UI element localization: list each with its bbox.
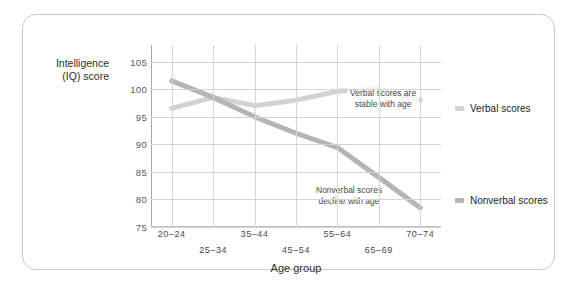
legend-item-verbal: Verbal scores (455, 103, 531, 114)
y-tick-label: 95 (107, 111, 147, 122)
x-axis-title: Age group (151, 262, 441, 274)
legend: Verbal scores Nonverbal scores (455, 15, 565, 271)
gridline-horizontal (151, 227, 441, 228)
legend-swatch-nonverbal-icon (455, 198, 464, 203)
y-tick-label: 90 (107, 139, 147, 150)
annotation-nonverbal-line-1: Nonverbal scores (316, 185, 382, 196)
annotation-nonverbal-line-2: decline with age (316, 196, 382, 207)
annotation-verbal-line-2: stable with age (350, 99, 416, 110)
y-tick-label: 100 (107, 84, 147, 95)
legend-label-nonverbal: Nonverbal scores (470, 195, 548, 206)
gridline-vertical (172, 45, 173, 227)
annotation-nonverbal-note: Nonverbal scores decline with age (313, 184, 385, 208)
x-axis-tick-labels: 20–2425–3435–4445–5455–6465–6970–74 (151, 229, 443, 263)
figure-panel: Intelligence (IQ) score 7580859095100105… (22, 14, 555, 270)
legend-label-verbal: Verbal scores (470, 103, 531, 114)
x-tick-label: 65–69 (365, 245, 393, 255)
gridline-vertical (255, 45, 256, 227)
gridline-vertical (213, 45, 214, 227)
x-tick-label: 55–64 (323, 229, 351, 239)
y-tick-label: 80 (107, 194, 147, 205)
y-axis-title-line-2: (IQ) score (31, 70, 109, 83)
annotation-verbal-note: Verbal scores are stable with age (347, 87, 419, 111)
y-axis-tick-labels: 7580859095100105 (105, 45, 147, 227)
y-axis-title: Intelligence (IQ) score (31, 57, 109, 83)
gridline-vertical (337, 45, 338, 227)
legend-swatch-verbal-icon (455, 106, 464, 111)
x-tick-label: 35–44 (241, 229, 269, 239)
x-tick-label: 20–24 (158, 229, 186, 239)
x-tick-label: 45–54 (282, 245, 310, 255)
gridline-vertical (379, 45, 380, 227)
plot-area: Verbal scores are stable with age Nonver… (151, 45, 441, 227)
y-tick-label: 85 (107, 166, 147, 177)
y-tick-label: 105 (107, 56, 147, 67)
gridline-vertical (296, 45, 297, 227)
legend-item-nonverbal: Nonverbal scores (455, 195, 548, 206)
y-axis-title-line-1: Intelligence (31, 57, 109, 70)
x-tick-label: 70–74 (406, 229, 434, 239)
y-tick-label: 75 (107, 222, 147, 233)
x-tick-label: 25–34 (199, 245, 227, 255)
gridline-vertical (420, 45, 421, 227)
